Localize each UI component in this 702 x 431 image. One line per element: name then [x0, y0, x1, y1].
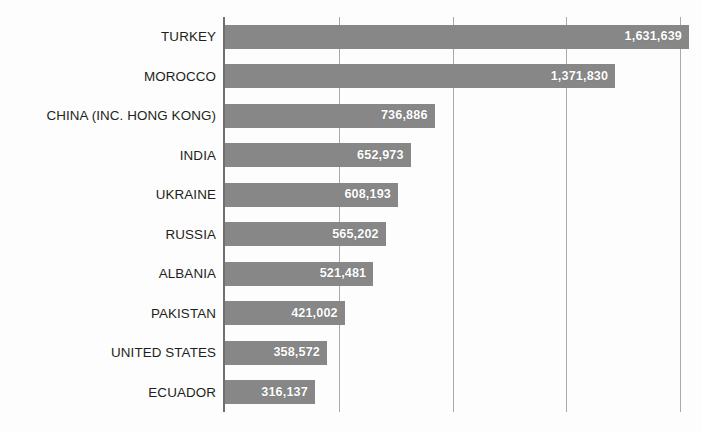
bar-row: UKRAINE608,193: [225, 175, 702, 215]
plot-area: TURKEY1,631,639MOROCCO1,371,830CHINA (IN…: [225, 17, 680, 412]
category-label: TURKEY: [161, 30, 216, 43]
category-label: MOROCCO: [144, 70, 216, 83]
bar: 316,137: [225, 380, 315, 404]
bar: 736,886: [225, 104, 435, 128]
bar-value-label: 1,631,639: [625, 30, 689, 43]
bar: 1,631,639: [225, 25, 689, 49]
category-label: INDIA: [180, 149, 216, 162]
bar: 652,973: [225, 143, 411, 167]
bar: 421,002: [225, 301, 345, 325]
bar-row: ALBANIA521,481: [225, 254, 702, 294]
bar-row: INDIA652,973: [225, 136, 702, 176]
bar-row: RUSSIA565,202: [225, 215, 702, 255]
category-label: CHINA (INC. HONG KONG): [46, 109, 216, 122]
bar-row: PAKISTAN421,002: [225, 294, 702, 334]
bar-value-label: 1,371,830: [551, 70, 615, 83]
category-label: UNITED STATES: [111, 346, 216, 359]
bar: 1,371,830: [225, 64, 615, 88]
bar-value-label: 521,481: [320, 267, 374, 280]
bar-value-label: 358,572: [273, 346, 327, 359]
bar-row: UNITED STATES358,572: [225, 333, 702, 373]
bar-row: ECUADOR316,137: [225, 373, 702, 413]
bar: 565,202: [225, 222, 386, 246]
category-label: ALBANIA: [159, 267, 216, 280]
bar-row: MOROCCO1,371,830: [225, 57, 702, 97]
bar: 358,572: [225, 341, 327, 365]
category-label: ECUADOR: [148, 386, 216, 399]
bar: 521,481: [225, 262, 373, 286]
category-label: PAKISTAN: [151, 307, 216, 320]
category-label: RUSSIA: [166, 228, 216, 241]
bar-value-label: 565,202: [332, 228, 386, 241]
bar: 608,193: [225, 183, 398, 207]
bar-value-label: 608,193: [344, 188, 398, 201]
bar-chart: TURKEY1,631,639MOROCCO1,371,830CHINA (IN…: [0, 0, 702, 431]
bar-value-label: 736,886: [381, 109, 435, 122]
category-label: UKRAINE: [156, 188, 216, 201]
bar-value-label: 421,002: [291, 307, 345, 320]
bar-row: CHINA (INC. HONG KONG)736,886: [225, 96, 702, 136]
bar-row: TURKEY1,631,639: [225, 17, 702, 57]
bar-value-label: 316,137: [261, 386, 315, 399]
bar-value-label: 652,973: [357, 149, 411, 162]
